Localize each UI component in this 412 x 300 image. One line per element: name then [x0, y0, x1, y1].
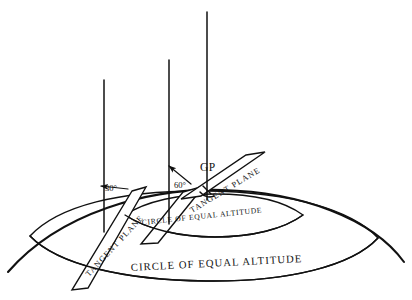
circle-label-outer: CIRCLE OF EQUAL ALTITUDE: [131, 253, 303, 273]
diagram-canvas: GP 30° 60° TANGENT PLANE TANGENT PLANE C…: [0, 0, 412, 300]
angle-label-30: 30°: [105, 183, 118, 193]
tangent-plane-left-shape: [72, 187, 146, 290]
tangent-plane-diagram: GP 30° 60° TANGENT PLANE TANGENT PLANE C…: [0, 0, 412, 300]
angle-label-60: 60°: [174, 180, 187, 190]
gp-label: GP: [200, 161, 216, 173]
